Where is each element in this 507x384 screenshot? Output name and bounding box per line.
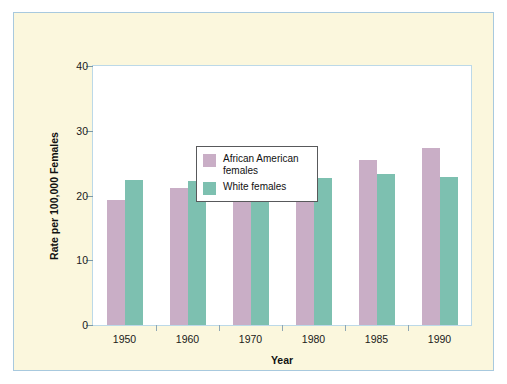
y-tick-label: 20 <box>76 190 88 201</box>
bar-group <box>93 180 156 325</box>
chart-screenshot: Rate per 100,000 Females 010203040 19501… <box>0 0 507 384</box>
bar <box>377 174 395 325</box>
bar <box>107 200 125 325</box>
x-tick-label: 1985 <box>365 334 388 345</box>
chart-legend: African American females White females <box>196 146 318 202</box>
x-tick-mark <box>156 325 157 331</box>
bar <box>233 186 251 325</box>
plot-area: 010203040 195019601970198019851990 Afric… <box>92 65 472 326</box>
bar <box>188 181 206 325</box>
y-tick-label: 40 <box>76 61 88 72</box>
x-tick-label: 1970 <box>239 334 262 345</box>
bar-group <box>345 160 408 325</box>
figure-panel: Rate per 100,000 Females 010203040 19501… <box>13 12 494 371</box>
legend-item: African American females <box>203 153 310 176</box>
y-axis-title-text: Rate per 100,000 Females <box>48 132 60 260</box>
x-axis-title: Year <box>92 354 472 366</box>
legend-swatch-series-b <box>203 182 216 195</box>
y-tick-label: 0 <box>82 320 88 331</box>
x-tick-label: 1950 <box>113 334 136 345</box>
y-tick-label: 30 <box>76 126 88 137</box>
legend-swatch-series-a <box>203 154 216 167</box>
bar <box>125 180 143 325</box>
bar <box>422 148 440 325</box>
legend-label-series-a: African American females <box>223 153 310 176</box>
x-tick-label: 1990 <box>428 334 451 345</box>
bar <box>359 160 377 325</box>
y-tick-label: 10 <box>76 255 88 266</box>
bar-group <box>408 148 471 325</box>
bar <box>170 188 188 325</box>
x-tick-label: 1960 <box>176 334 199 345</box>
legend-label-series-b: White females <box>223 181 286 193</box>
x-tick-mark <box>282 325 283 331</box>
x-tick-label: 1980 <box>302 334 325 345</box>
x-tick-mark <box>408 325 409 331</box>
y-axis-title: Rate per 100,000 Females <box>47 65 61 326</box>
bar-group <box>156 181 219 325</box>
legend-item: White females <box>203 181 310 195</box>
bar <box>440 177 458 325</box>
x-axis-title-text: Year <box>271 354 293 366</box>
x-tick-mark <box>345 325 346 331</box>
x-tick-mark <box>219 325 220 331</box>
